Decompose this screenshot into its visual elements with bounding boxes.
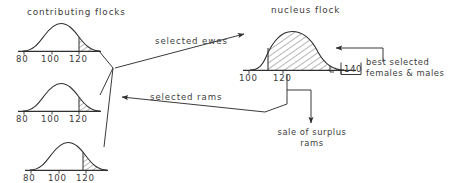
tick-label-top-80: 80 [16,54,29,64]
tick-label-nucleus-120: 120 [273,73,292,83]
selected-ewes-label: selected ewes [155,36,228,46]
sale-surplus-line1: sale of surplus [277,127,346,137]
tick-label-middle-120: 120 [69,114,88,124]
nucleus-flock-title: nucleus flock [271,5,340,16]
tick-label-middle-100: 100 [41,114,60,124]
bracket-label-140: 140 [344,64,362,74]
contributing-flocks-title: contributing flocks [27,7,126,18]
line-top-to-node [99,51,113,68]
tick-label-middle-80: 80 [16,114,29,124]
diagram-canvas [0,0,461,183]
tick-label-top-100: 100 [41,54,60,64]
best-selected-line2: females & males [366,68,444,78]
bell-curve-top [23,24,100,52]
tick-label-nucleus-100: 100 [239,73,258,83]
contributing-flock-bottom-chart [25,139,109,174]
shaded-area-nucleus [268,26,348,74]
tick-label-bottom-100: 100 [48,173,67,183]
rams-branch-connector [265,104,287,112]
selected-rams-label: selected rams [150,92,222,102]
tick-label-bottom-120: 120 [76,173,95,183]
bell-curve-middle [23,84,100,112]
tick-label-top-120: 120 [69,54,88,64]
convergence-lines [99,51,113,147]
line-bottom-to-node [104,68,113,147]
bell-curve-bottom [30,143,107,171]
best-selected-line1: best selected [366,57,429,67]
contributing-flock-middle-chart [18,80,103,115]
tick-label-bottom-80: 80 [23,173,36,183]
sale-surplus-line2: rams [300,138,323,148]
shaded-tail-bottom [83,139,109,173]
flock-breeding-structure-diagram: contributing flocks nucleus flock 80 100… [0,0,461,183]
contributing-flock-top-chart [18,20,103,55]
